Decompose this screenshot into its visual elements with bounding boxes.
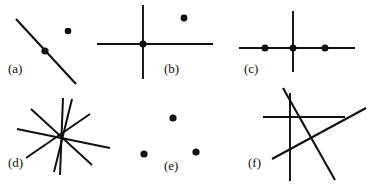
panel-e-label: (e) xyxy=(164,158,178,173)
panel-b-dot-off-lines xyxy=(181,15,188,22)
panel-e-dot-bottom-right xyxy=(192,148,199,155)
figure-canvas: (a)(b)(c)(d)(e)(f) xyxy=(0,0,372,186)
panel-a-dot-on-line xyxy=(41,47,48,54)
panel-e-dot-top xyxy=(169,114,176,121)
panel-c-dot-right-on-horizontal xyxy=(322,45,329,52)
figure-background xyxy=(0,0,372,186)
panel-b-dot-at-intersection xyxy=(139,40,146,47)
panel-e-dot-bottom-left xyxy=(140,150,147,157)
panel-d-label: (d) xyxy=(8,155,23,170)
panel-c-label: (c) xyxy=(244,61,258,76)
panel-f-label: (f) xyxy=(248,155,261,170)
panel-c-dot-left-on-horizontal xyxy=(262,45,269,52)
panel-a-dot-off-line xyxy=(65,28,72,35)
panel-b-label: (b) xyxy=(164,61,179,76)
geometric-arrangements-figure: (a)(b)(c)(d)(e)(f) xyxy=(0,0,372,186)
panel-a-label: (a) xyxy=(8,61,22,76)
panel-c-dot-at-intersection xyxy=(290,45,297,52)
